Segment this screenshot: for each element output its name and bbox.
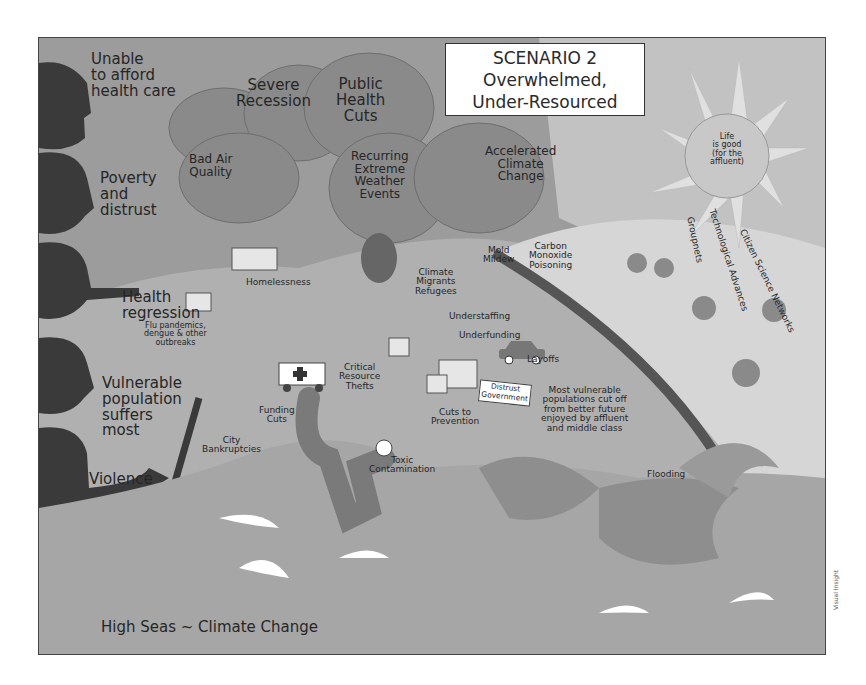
credit-visual-insight: Visual Insight [832, 570, 839, 610]
label-layoffs: Layoffs [527, 355, 559, 364]
label-funding-cuts: FundingCuts [259, 406, 295, 425]
label-city-bankruptcies: CityBankruptcies [202, 436, 261, 455]
label-violence: Violence [89, 472, 153, 488]
label-understaffing: Understaffing [449, 312, 510, 321]
label-cuts-prevention: Cuts toPrevention [431, 408, 479, 427]
label-poverty: Povertyanddistrust [100, 171, 157, 218]
label-unable-afford: Unableto affordhealth care [91, 52, 176, 99]
label-most-vulnerable: Most vulnerablepopulations cut offfrom b… [541, 386, 628, 433]
label-mold: MoldMildew [483, 246, 514, 265]
label-accelerated-climate: AcceleratedClimateChange [485, 145, 556, 183]
label-homelessness: Homelessness [246, 278, 311, 287]
label-critical-thefts: CriticalResourceThefts [339, 363, 380, 391]
illustration-frame: Unableto affordhealth care Povertyanddis… [38, 37, 826, 655]
title-line-2: Overwhelmed, [446, 69, 644, 91]
label-underfunding: Underfunding [459, 331, 520, 340]
scenario-title-box: SCENARIO 2 Overwhelmed, Under-Resourced [445, 43, 645, 116]
label-severe-recession: SevereRecession [236, 78, 311, 110]
label-climate-migrants: ClimateMigrantsRefugees [415, 268, 457, 296]
label-sun: Lifeis good(for theaffluent) [703, 133, 751, 167]
label-bad-air: Bad AirQuality [189, 153, 233, 178]
label-flooding: Flooding [647, 470, 685, 479]
label-vulnerable: Vulnerablepopulationsuffersmost [102, 376, 182, 439]
label-extreme-weather: RecurringExtremeWeatherEvents [351, 150, 409, 200]
label-public-health-cuts: PublicHealthCuts [336, 77, 385, 124]
skull [376, 440, 392, 456]
title-line-1: SCENARIO 2 [446, 47, 644, 69]
label-toxic-contamination: ToxicContamination [369, 456, 435, 475]
label-high-seas: High Seas ~ Climate Change [101, 620, 318, 636]
label-carbon-monoxide: CarbonMonoxidePoisoning [529, 242, 572, 270]
label-health-regression: Healthregression [122, 290, 200, 322]
title-line-3: Under-Resourced [446, 91, 644, 113]
label-outbreaks: Flu pandemics,dengue & otheroutbreaks [144, 322, 207, 347]
